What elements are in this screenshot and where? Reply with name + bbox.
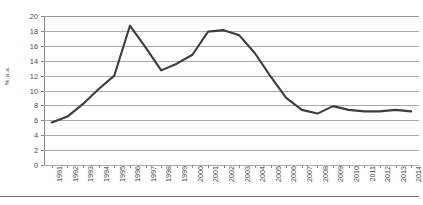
x-axis-tickmark bbox=[396, 165, 397, 168]
x-axis-tick-label: 1991 bbox=[55, 166, 64, 182]
x-axis-tick-label: 1997 bbox=[149, 166, 158, 182]
x-axis-tickmark bbox=[317, 165, 318, 168]
x-axis-tick-label: 2000 bbox=[196, 166, 205, 182]
x-axis-tickmark bbox=[349, 165, 350, 168]
x-axis-tick-label: 1993 bbox=[86, 166, 95, 182]
y-axis-tick-label: 8 bbox=[34, 101, 38, 110]
x-axis-tickmark bbox=[146, 165, 147, 168]
x-axis-tick-label: 2008 bbox=[321, 166, 330, 182]
y-axis-tick-label: 10 bbox=[30, 86, 38, 95]
x-axis-tickmark bbox=[302, 165, 303, 168]
x-axis-tickmark bbox=[224, 165, 225, 168]
x-axis-tickmark bbox=[333, 165, 334, 168]
x-axis-tick-labels: 1991199219931994199519961997199819992000… bbox=[44, 166, 419, 200]
y-axis-tick-label: 14 bbox=[30, 56, 38, 65]
x-axis-tick-label: 2010 bbox=[352, 166, 361, 182]
x-axis-tickmark bbox=[83, 165, 84, 168]
x-axis-tick-label: 2009 bbox=[336, 166, 345, 182]
x-axis-tick-label: 2013 bbox=[399, 166, 408, 182]
x-axis-tickmark bbox=[364, 165, 365, 168]
x-axis-tick-label: 2002 bbox=[227, 166, 236, 182]
x-axis-tick-label: 2004 bbox=[258, 166, 267, 182]
y-axis-tick-label: 6 bbox=[34, 116, 38, 125]
x-axis-tick-label: 1994 bbox=[102, 166, 111, 182]
x-axis-tick-label: 2012 bbox=[383, 166, 392, 182]
x-axis-tickmark bbox=[208, 165, 209, 168]
plot-area bbox=[44, 16, 419, 165]
y-axis-tick-label: 20 bbox=[30, 12, 38, 21]
y-axis-tick-label: 0 bbox=[34, 161, 38, 170]
x-axis-tick-label: 2007 bbox=[305, 166, 314, 182]
x-axis-tick-label: 1992 bbox=[71, 166, 80, 182]
x-axis-tick-label: 2003 bbox=[243, 166, 252, 182]
x-axis-tick-label: 1995 bbox=[118, 166, 127, 182]
x-axis-tick-label: 1998 bbox=[164, 166, 173, 182]
x-axis-tick-label: 2014 bbox=[414, 166, 423, 182]
data-series-line bbox=[44, 16, 419, 165]
y-axis-tick-label: 18 bbox=[30, 26, 38, 35]
x-axis-tickmark bbox=[380, 165, 381, 168]
x-axis-tickmark bbox=[161, 165, 162, 168]
x-axis-tick-label: 2001 bbox=[211, 166, 220, 182]
x-axis-tickmark bbox=[99, 165, 100, 168]
x-axis-tickmark bbox=[52, 165, 53, 168]
y-axis-tick-labels: 02468101214161820 bbox=[0, 0, 44, 205]
x-axis-tickmark bbox=[271, 165, 272, 168]
x-axis-tickmark bbox=[177, 165, 178, 168]
x-axis-tick-label: 2005 bbox=[274, 166, 283, 182]
y-axis-tick-label: 2 bbox=[34, 146, 38, 155]
x-axis-tickmark bbox=[192, 165, 193, 168]
x-axis-tickmark bbox=[286, 165, 287, 168]
y-axis-tick-label: 12 bbox=[30, 71, 38, 80]
x-axis-tickmark bbox=[255, 165, 256, 168]
y-axis-tick-label: 4 bbox=[34, 131, 38, 140]
x-axis-tickmark bbox=[67, 165, 68, 168]
x-axis-tickmark bbox=[114, 165, 115, 168]
y-axis-tick-label: 16 bbox=[30, 41, 38, 50]
x-axis-tickmark bbox=[411, 165, 412, 168]
x-axis-tick-label: 2006 bbox=[289, 166, 298, 182]
x-axis-tickmark bbox=[130, 165, 131, 168]
footer-rule bbox=[0, 196, 419, 197]
x-axis-tick-label: 1996 bbox=[133, 166, 142, 182]
x-axis-tick-label: 1999 bbox=[180, 166, 189, 182]
x-axis-tickmark bbox=[239, 165, 240, 168]
x-axis-tick-label: 2011 bbox=[368, 166, 377, 181]
